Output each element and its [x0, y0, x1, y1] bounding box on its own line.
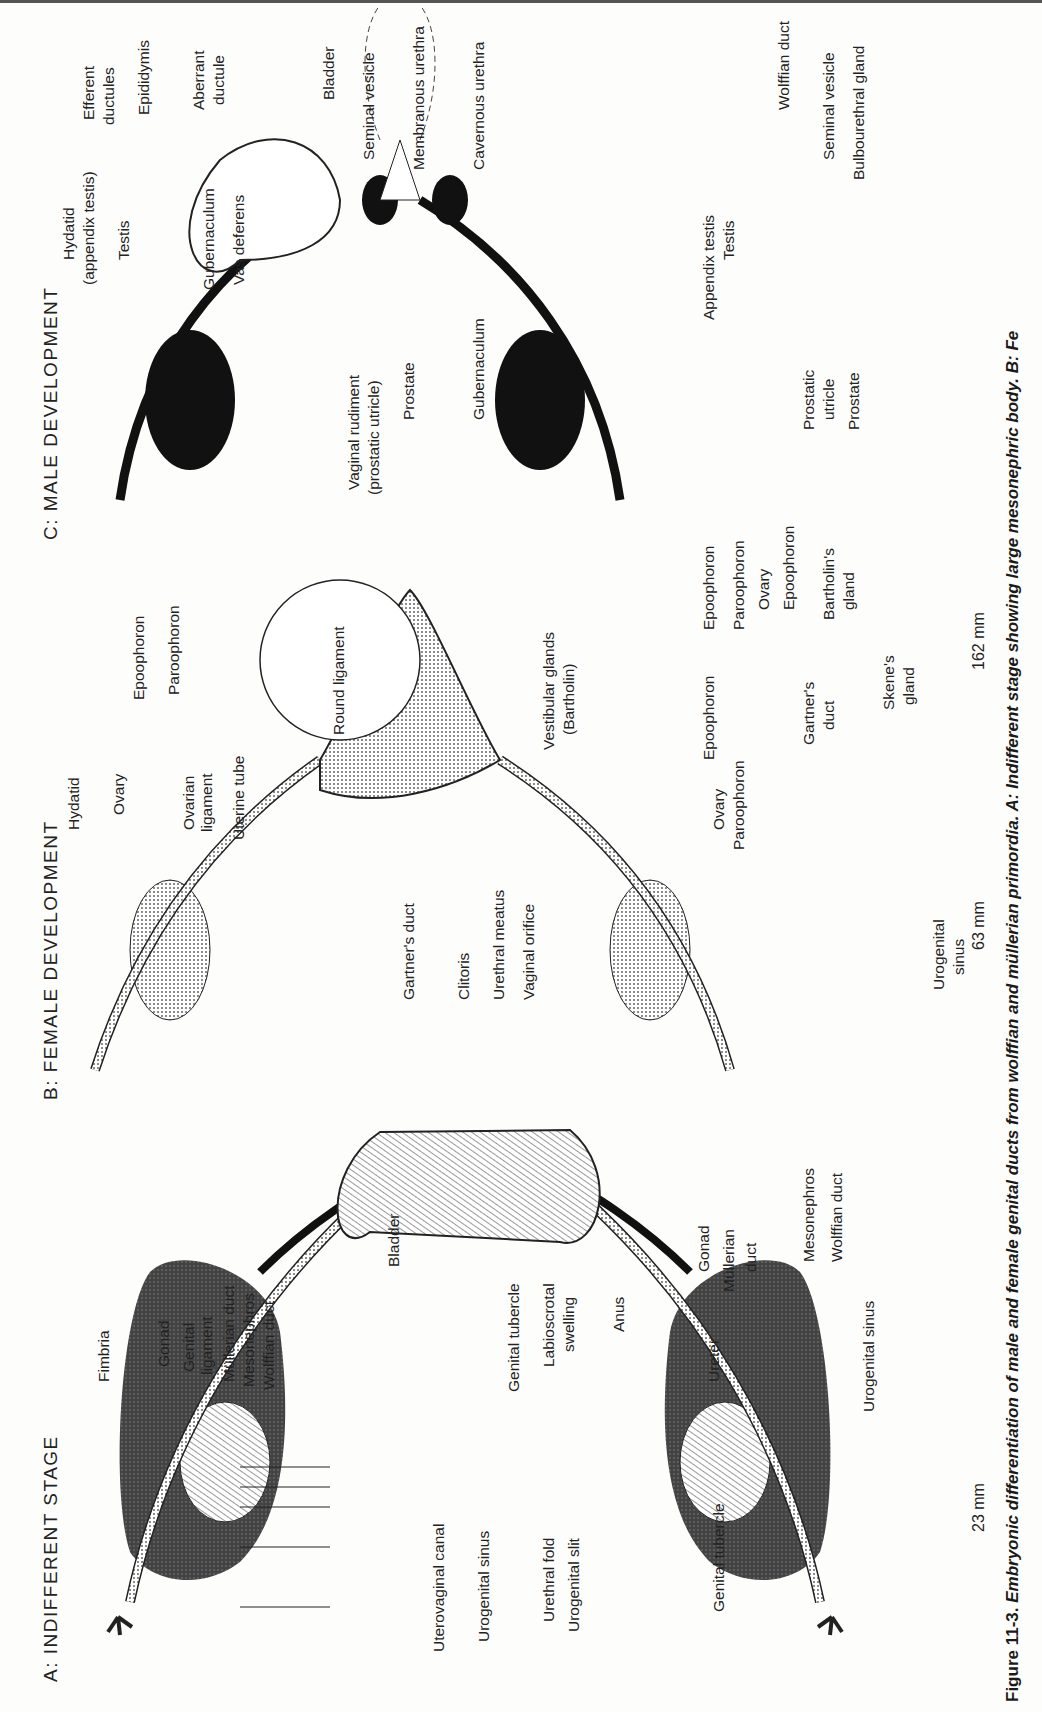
label-anus: Anus [610, 1297, 628, 1332]
label-uterovaginal-canal: Uterovaginal canal [430, 1524, 448, 1652]
label-ovarian-ligament-2: ligament [198, 773, 216, 832]
label-lateral-bulbourethral: Bulbourethral gland [850, 46, 868, 180]
label-aberrant-2: ductule [210, 55, 228, 105]
label-lateral-prostatic-utricle-2: utricle [820, 379, 838, 420]
label-prostate: Prostate [400, 362, 418, 420]
label-162-skenes-2: gland [900, 667, 918, 705]
label-gartners-duct: Gartner's duct [400, 903, 418, 1000]
label-gubernaculum-bottom: Gubernaculum [470, 318, 488, 420]
label-63-paroophoron: Paroophoron [730, 760, 748, 850]
textbook-page: A: INDIFFERENT STAGE Fimbria Gonad Genit… [0, 0, 1042, 1712]
label-bladder-male: Bladder [320, 47, 338, 100]
label-lateral-prostate: Prostate [845, 372, 863, 430]
label-cavernous-urethra: Cavernous urethra [470, 42, 488, 170]
panel-male-development: C: MALE DEVELOPMENT Hydatid (appendix te… [0, 0, 1000, 560]
label-paroophoron: Paroophoron [165, 605, 183, 695]
label-bladder: Bladder [385, 1214, 403, 1267]
label-efferent-2: ductules [100, 67, 118, 125]
panel-indifferent-stage: A: INDIFFERENT STAGE Fimbria Gonad Genit… [0, 1130, 1000, 1712]
label-63-gartners-2: duct [820, 701, 838, 730]
label-mesonephros: Mesonephros [240, 1293, 258, 1387]
panel-female-development: B: FEMALE DEVELOPMENT Hydatid Ovary Ovar… [0, 560, 1000, 1130]
female-development-illustration [0, 560, 1000, 1130]
label-hydatid-2: (appendix testis) [80, 171, 98, 285]
label-urethral-fold: Urethral fold [540, 1538, 558, 1622]
label-genital-ligament-1: Genital [180, 1323, 198, 1372]
label-63-urogenital-2: sinus [950, 939, 968, 975]
label-ovary: Ovary [110, 774, 128, 815]
label-lateral-wolffian-duct-male: Wolffian duct [775, 21, 793, 110]
label-vaginal-rudiment-2: (prostatic utricle) [365, 380, 383, 495]
label-aberrant-1: Aberrant [190, 51, 208, 110]
stage-size-23mm: 23 mm [970, 1483, 988, 1532]
label-urogenital-slit: Urogenital slit [565, 1538, 583, 1632]
label-lateral-mesonephros: Mesonephros [800, 1168, 818, 1262]
label-lateral-wolffian-duct: Wolffian duct [828, 1173, 846, 1262]
label-lateral-mullerian-1: Müllerian [720, 1229, 738, 1292]
label-vaginal-orifice: Vaginal orifice [520, 904, 538, 1000]
label-162-ovary: Ovary [755, 569, 773, 610]
label-clitoris: Clitoris [455, 953, 473, 1000]
label-lateral-prostatic-utricle-1: Prostatic [800, 370, 818, 430]
label-lateral-ureter: Ureter [705, 1339, 723, 1382]
label-63-urogenital-1: Urogenital [930, 919, 948, 990]
stage-size-63mm: 63 mm [970, 901, 988, 950]
label-mullerian-duct: Müllerian duct [220, 1286, 238, 1383]
indifferent-stage-illustration [0, 1130, 1000, 1712]
figure-caption-text: Embryonic differentiation of male and fe… [1003, 331, 1022, 1608]
label-lateral-mullerian-2: duct [742, 1243, 760, 1272]
label-epoophoron: Epoophoron [130, 616, 148, 700]
label-162-bartholins-2: gland [840, 572, 858, 610]
label-genital-tubercle: Genital tubercle [505, 1283, 523, 1392]
figure-number: Figure 11-3. [1003, 1608, 1022, 1702]
label-vas-deferens: Vas deferens [230, 195, 248, 285]
label-lateral-testis: Testis [720, 220, 738, 260]
label-vestibular-glands-2: (Bartholin) [560, 664, 578, 736]
label-gubernaculum-top: Gubernaculum [200, 188, 218, 290]
label-wolffian-duct: Wolffian duct [260, 1301, 278, 1390]
label-efferent-1: Efferent [80, 66, 98, 120]
label-ovarian-ligament-1: Ovarian [180, 776, 198, 830]
label-seminal-vesicle: Seminal vesicle [360, 52, 378, 160]
label-urogenital-sinus: Urogenital sinus [475, 1531, 493, 1642]
label-63-ovary: Ovary [710, 789, 728, 830]
label-63-epoophoron: Epoophoron [700, 676, 718, 760]
label-162-skenes-1: Skene's [880, 655, 898, 710]
figure-caption: Figure 11-3. Embryonic differentiation o… [1003, 2, 1023, 1702]
label-lateral-gonad: Gonad [695, 1225, 713, 1272]
label-labioscrotal-2: swelling [560, 1297, 578, 1352]
label-vaginal-rudiment-1: Vaginal rudiment [345, 375, 363, 490]
panel-a-title: A: INDIFFERENT STAGE [40, 1435, 62, 1682]
panel-b-title: B: FEMALE DEVELOPMENT [40, 820, 62, 1100]
label-63-gartners-1: Gartner's [800, 682, 818, 745]
label-gonad: Gonad [155, 1320, 173, 1367]
panel-c-title: C: MALE DEVELOPMENT [40, 287, 62, 540]
label-round-ligament: Round ligament [330, 626, 348, 735]
label-lateral-appendix-testis: Appendix testis [700, 215, 718, 320]
label-testis: Testis [115, 220, 133, 260]
label-urethral-meatus: Urethral meatus [490, 890, 508, 1000]
label-labioscrotal-1: Labioscrotal [540, 1283, 558, 1367]
label-lateral-genital-tubercle: Genital tubercle [710, 1503, 728, 1612]
label-hydatid: Hydatid [65, 777, 83, 830]
label-genital-ligament-2: ligament [198, 1316, 216, 1375]
label-fimbria: Fimbria [95, 1330, 113, 1382]
label-membranous-urethra: Membranous urethra [410, 26, 428, 170]
label-uterine-tube: Uterine tube [230, 756, 248, 840]
label-lateral-urogenital-sinus: Urogenital sinus [860, 1301, 878, 1412]
stage-size-162mm: 162 mm [970, 612, 988, 670]
label-hydatid-1: Hydatid [60, 207, 78, 260]
label-lateral-seminal-vesicle: Seminal vesicle [820, 52, 838, 160]
label-epididymis: Epididymis [135, 40, 153, 115]
label-vestibular-glands-1: Vestibular glands [540, 632, 558, 750]
